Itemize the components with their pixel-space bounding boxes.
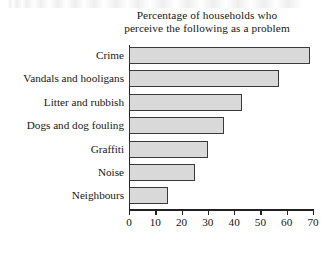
category-label-neighbours: Neighbours (0, 189, 124, 202)
bar-row (129, 141, 208, 158)
bar-vandals-and-hooligans (129, 70, 279, 87)
x-tick-mark-50 (260, 210, 261, 215)
x-tick-mark-20 (182, 210, 183, 215)
x-tick-mark-0 (129, 210, 130, 215)
x-tick-mark-60 (287, 210, 288, 215)
category-label-litter-and-rubbish: Litter and rubbish (0, 96, 124, 109)
bar-row (129, 187, 168, 204)
scan-bleed-artifact (8, 0, 308, 8)
category-axis-labels: CrimeVandals and hooligansLitter and rub… (0, 45, 124, 210)
bar-row (129, 117, 224, 134)
category-label-dogs-and-dog-fouling: Dogs and dog fouling (0, 119, 124, 132)
bar-row (129, 164, 195, 181)
bar-chart-figure: Percentage of households who perceive th… (0, 0, 329, 256)
plot-area (129, 45, 313, 209)
x-tick-mark-30 (208, 210, 209, 215)
x-tick-label-70: 70 (298, 216, 328, 229)
category-label-crime: Crime (0, 49, 124, 62)
bar-row (129, 47, 310, 64)
x-axis-ticks: 010203040506070 (0, 210, 329, 240)
chart-title-line-2: perceive the following as a problem (96, 22, 318, 35)
x-tick-mark-10 (155, 210, 156, 215)
category-label-noise: Noise (0, 166, 124, 179)
category-label-vandals-and-hooligans: Vandals and hooligans (0, 72, 124, 85)
bar-neighbours (129, 187, 168, 204)
bar-row (129, 70, 279, 87)
bar-litter-and-rubbish (129, 94, 242, 111)
x-tick-mark-40 (234, 210, 235, 215)
bar-dogs-and-dog-fouling (129, 117, 224, 134)
x-tick-mark-70 (313, 210, 314, 215)
bar-crime (129, 47, 310, 64)
bar-graffiti (129, 141, 208, 158)
category-label-graffiti: Graffiti (0, 143, 124, 156)
bar-row (129, 94, 242, 111)
chart-title-line-1: Percentage of households who (96, 9, 318, 22)
bar-noise (129, 164, 195, 181)
chart-title: Percentage of households who perceive th… (96, 9, 318, 35)
